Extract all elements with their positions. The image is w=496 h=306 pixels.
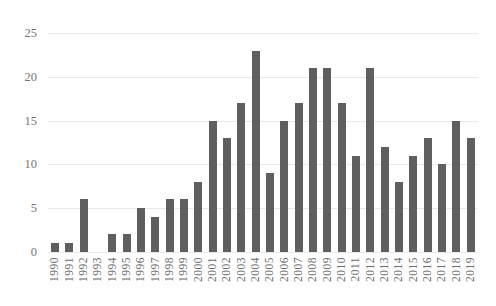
x-tick-label-1994: 1994 <box>107 257 119 282</box>
x-tick-label-2002: 2002 <box>221 257 233 282</box>
x-tick-label-1993: 1993 <box>92 257 104 282</box>
bar-slot-1994 <box>105 33 119 252</box>
bar-2015 <box>409 156 417 252</box>
x-tick-label-2006: 2006 <box>279 257 291 282</box>
bar-slot-2001 <box>206 33 220 252</box>
y-axis: 0510152025 <box>0 33 37 252</box>
x-slot-2002: 2002 <box>220 257 234 282</box>
x-tick-label-2013: 2013 <box>379 257 391 282</box>
bar-slot-2016 <box>421 33 435 252</box>
x-tick-label-2012: 2012 <box>365 257 377 282</box>
x-tick-label-2003: 2003 <box>236 257 248 282</box>
x-slot-2013: 2013 <box>378 257 392 282</box>
gridline-y-0 <box>48 252 478 253</box>
x-slot-2005: 2005 <box>263 257 277 282</box>
x-slot-2016: 2016 <box>421 257 435 282</box>
x-slot-1999: 1999 <box>177 257 191 282</box>
x-tick-label-2007: 2007 <box>293 257 305 282</box>
bar-2003 <box>237 103 245 252</box>
x-tick-label-2011: 2011 <box>350 257 362 282</box>
bar-2016 <box>424 138 432 252</box>
bar-slot-2005 <box>263 33 277 252</box>
y-tick-label-25: 25 <box>0 26 37 40</box>
x-slot-2018: 2018 <box>449 257 463 282</box>
bar-1997 <box>151 217 159 252</box>
bars-container <box>48 33 478 252</box>
x-slot-1993: 1993 <box>91 257 105 282</box>
x-slot-2011: 2011 <box>349 257 363 282</box>
x-slot-2019: 2019 <box>464 257 478 282</box>
x-tick-label-2010: 2010 <box>336 257 348 282</box>
x-slot-2017: 2017 <box>435 257 449 282</box>
x-tick-label-1990: 1990 <box>49 257 61 282</box>
x-slot-1998: 1998 <box>163 257 177 282</box>
x-slot-2000: 2000 <box>191 257 205 282</box>
bar-2008 <box>309 68 317 252</box>
x-tick-label-2000: 2000 <box>193 257 205 282</box>
bar-slot-2011 <box>349 33 363 252</box>
bar-2001 <box>209 121 217 252</box>
x-slot-2004: 2004 <box>249 257 263 282</box>
x-tick-label-1998: 1998 <box>164 257 176 282</box>
bar-2005 <box>266 173 274 252</box>
bar-2018 <box>452 121 460 252</box>
bar-slot-2014 <box>392 33 406 252</box>
bar-1992 <box>80 199 88 252</box>
bar-2013 <box>381 147 389 252</box>
x-slot-1994: 1994 <box>105 257 119 282</box>
x-tick-label-1991: 1991 <box>64 257 76 282</box>
bar-2006 <box>280 121 288 252</box>
x-tick-label-2009: 2009 <box>322 257 334 282</box>
y-tick-label-20: 20 <box>0 70 37 84</box>
x-tick-label-2018: 2018 <box>451 257 463 282</box>
bar-2012 <box>366 68 374 252</box>
bar-2004 <box>252 51 260 252</box>
bar-slot-2018 <box>449 33 463 252</box>
x-tick-label-2005: 2005 <box>264 257 276 282</box>
x-tick-label-2016: 2016 <box>422 257 434 282</box>
bar-slot-1991 <box>62 33 76 252</box>
bar-slot-2009 <box>320 33 334 252</box>
bar-2002 <box>223 138 231 252</box>
bar-2017 <box>438 164 446 252</box>
bar-slot-2002 <box>220 33 234 252</box>
x-tick-label-1997: 1997 <box>150 257 162 282</box>
x-slot-1997: 1997 <box>148 257 162 282</box>
bar-slot-2007 <box>292 33 306 252</box>
x-tick-label-2019: 2019 <box>465 257 477 282</box>
bar-slot-1993 <box>91 33 105 252</box>
x-slot-2010: 2010 <box>335 257 349 282</box>
bar-1998 <box>166 199 174 252</box>
bar-1994 <box>108 234 116 252</box>
bar-slot-2013 <box>378 33 392 252</box>
x-slot-2015: 2015 <box>406 257 420 282</box>
bar-2000 <box>194 182 202 252</box>
y-tick-label-15: 15 <box>0 114 37 128</box>
bar-2010 <box>338 103 346 252</box>
plot-area <box>48 33 478 252</box>
x-slot-1996: 1996 <box>134 257 148 282</box>
x-tick-label-1996: 1996 <box>135 257 147 282</box>
bar-slot-2004 <box>249 33 263 252</box>
y-tick-label-5: 5 <box>0 201 37 215</box>
bar-slot-1990 <box>48 33 62 252</box>
x-tick-label-1992: 1992 <box>78 257 90 282</box>
x-slot-2003: 2003 <box>234 257 248 282</box>
x-tick-label-2014: 2014 <box>393 257 405 282</box>
x-slot-1991: 1991 <box>62 257 76 282</box>
bar-2014 <box>395 182 403 252</box>
x-tick-label-1999: 1999 <box>178 257 190 282</box>
x-slot-1992: 1992 <box>77 257 91 282</box>
bar-slot-1996 <box>134 33 148 252</box>
x-tick-label-2017: 2017 <box>436 257 448 282</box>
bar-1995 <box>123 234 131 252</box>
bar-slot-2012 <box>363 33 377 252</box>
x-tick-label-2015: 2015 <box>408 257 420 282</box>
bar-1991 <box>65 243 73 252</box>
x-tick-label-2001: 2001 <box>207 257 219 282</box>
bar-2019 <box>467 138 475 252</box>
bar-slot-2015 <box>406 33 420 252</box>
x-tick-label-1995: 1995 <box>121 257 133 282</box>
bar-slot-1995 <box>120 33 134 252</box>
x-slot-2007: 2007 <box>292 257 306 282</box>
